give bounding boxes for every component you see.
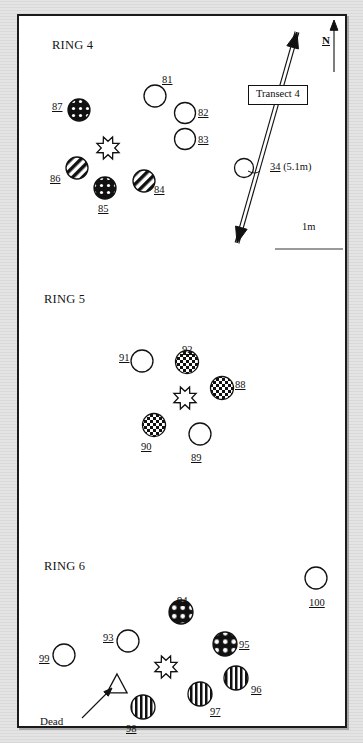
dead-label: Dead bbox=[40, 715, 63, 727]
specimen-symbol-98 bbox=[131, 695, 155, 719]
starburst-symbol bbox=[97, 137, 119, 159]
specimen-label-91: 91 bbox=[119, 352, 130, 363]
specimen-label-99: 99 bbox=[39, 653, 50, 664]
transect-point-id: 34 bbox=[270, 161, 281, 172]
specimen-label-83: 83 bbox=[198, 134, 209, 145]
specimen-label-93: 93 bbox=[103, 632, 114, 643]
transect-point-distance: (5.1m) bbox=[283, 161, 311, 172]
specimen-label-95: 95 bbox=[239, 639, 250, 650]
specimen-symbol-90 bbox=[143, 414, 166, 437]
dead-pointer bbox=[82, 688, 112, 718]
specimen-label-85: 85 bbox=[98, 203, 109, 214]
specimen-label-97: 97 bbox=[210, 706, 221, 717]
transect-point-circle bbox=[235, 159, 254, 178]
specimen-symbol-86 bbox=[66, 157, 88, 179]
north-arrow bbox=[330, 20, 338, 72]
specimen-symbol-81 bbox=[144, 85, 166, 107]
transect-4 bbox=[235, 31, 299, 243]
specimen-label-88: 88 bbox=[235, 379, 246, 390]
specimen-label-89: 89 bbox=[191, 452, 202, 463]
specimen-symbol-99 bbox=[53, 644, 75, 666]
transect-arrowhead-north bbox=[287, 32, 299, 49]
specimen-symbol-91 bbox=[131, 350, 153, 372]
specimen-label-86: 86 bbox=[50, 173, 61, 184]
ring-title-1: RING 4 bbox=[52, 38, 93, 53]
specimen-symbol-95 bbox=[213, 632, 237, 656]
transect-label-box: Transect 4 bbox=[248, 85, 308, 105]
north-letter: N bbox=[322, 34, 330, 46]
specimen-label-84: 84 bbox=[154, 184, 165, 195]
specimen-label-87: 87 bbox=[52, 101, 63, 112]
specimen-label-94: 94 bbox=[177, 595, 188, 606]
starburst-symbol bbox=[155, 656, 177, 678]
transect-point-label: 34 (5.1m) bbox=[270, 161, 311, 172]
specimen-symbol-83 bbox=[175, 129, 196, 150]
specimen-label-100: 100 bbox=[309, 597, 325, 608]
scale-bar-rule bbox=[275, 248, 343, 250]
transect-point-leader bbox=[248, 171, 260, 173]
ring-title-2: RING 5 bbox=[44, 292, 85, 307]
ring-title-3: RING 6 bbox=[44, 559, 85, 574]
specimen-label-96: 96 bbox=[251, 684, 262, 695]
starburst-symbol bbox=[174, 387, 196, 409]
specimen-label-90: 90 bbox=[141, 441, 152, 452]
specimen-symbol-96 bbox=[224, 666, 248, 690]
scale-bar-label: 1m bbox=[302, 221, 315, 232]
specimen-symbol-93 bbox=[117, 630, 139, 652]
specimen-symbol-87 bbox=[68, 99, 90, 121]
specimen-label-82: 82 bbox=[198, 107, 209, 118]
transect-arrowhead-south bbox=[236, 226, 248, 243]
specimen-symbol-89 bbox=[189, 423, 211, 445]
specimen-symbol-97 bbox=[188, 682, 212, 706]
specimen-label-98: 98 bbox=[126, 723, 137, 734]
specimen-symbol-88 bbox=[211, 377, 234, 400]
specimen-symbol-82 bbox=[175, 103, 196, 124]
specimen-label-81: 81 bbox=[162, 74, 173, 85]
figure-root: RING 481828384858687RING 58889909192RING… bbox=[0, 0, 363, 743]
specimen-symbol-84 bbox=[133, 170, 155, 192]
specimen-symbol-100 bbox=[305, 567, 327, 589]
specimen-symbol-85 bbox=[94, 177, 116, 199]
specimen-label-92: 92 bbox=[182, 344, 193, 355]
north-arrowhead bbox=[330, 20, 338, 30]
